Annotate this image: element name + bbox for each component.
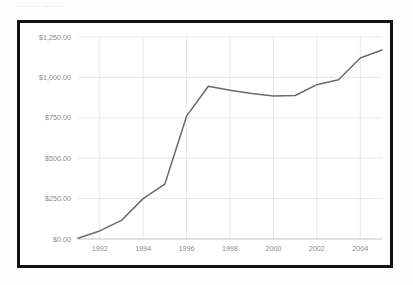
y-axis-tick-label: $1,000.00 [39,73,71,82]
chart-frame: $0.00$250.00$500.00$750.00$1,000.00$1,25… [17,20,393,268]
x-axis-tick-label: 2002 [309,244,325,253]
y-axis-tick-labels: $0.00$250.00$500.00$750.00$1,000.00$1,25… [39,33,71,244]
y-axis-tick-label: $1,250.00 [39,33,71,42]
x-axis-tick-labels: 1992199419961998200020022004 [92,244,369,253]
x-axis-tick-label: 1992 [92,244,108,253]
y-axis-tick-label: $500.00 [45,154,71,163]
x-axis-tick-label: 2004 [352,244,368,253]
gridlines-vertical [100,37,361,239]
x-axis-tick-label: 1998 [222,244,238,253]
cropped-header-text: — —— ——— [16,1,86,10]
x-axis-tick-label: 2000 [265,244,281,253]
line-chart: $0.00$250.00$500.00$750.00$1,000.00$1,25… [20,23,390,265]
y-axis-tick-label: $0.00 [53,235,71,244]
y-axis-tick-label: $250.00 [45,194,71,203]
x-axis-tick-label: 1996 [179,244,195,253]
y-axis-tick-label: $750.00 [45,113,71,122]
x-axis-tick-label: 1994 [135,244,151,253]
